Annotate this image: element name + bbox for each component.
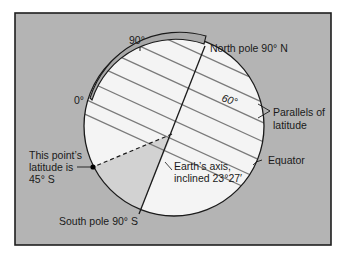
- label-point-line1: This point’s: [29, 149, 82, 161]
- label-axis-line1: Earth’s axis,: [174, 160, 231, 172]
- latitude-diagram: 90° 0° 60° North pole 90° N Parallels of…: [0, 0, 342, 254]
- label-south-pole: South pole 90° S: [59, 215, 138, 227]
- label-parallels-line2: latitude: [273, 119, 307, 131]
- label-0-degrees: 0°: [74, 94, 84, 106]
- label-parallels-line1: Parallels of: [273, 106, 325, 118]
- label-point-line2: latitude is: [29, 161, 73, 173]
- point-marker: [90, 164, 95, 169]
- label-axis-line2: inclined 23°27′: [174, 172, 242, 184]
- label-90-degrees: 90°: [129, 34, 145, 46]
- label-equator: Equator: [268, 154, 305, 166]
- label-north-pole: North pole 90° N: [210, 42, 288, 54]
- label-point-line3: 45° S: [29, 173, 55, 185]
